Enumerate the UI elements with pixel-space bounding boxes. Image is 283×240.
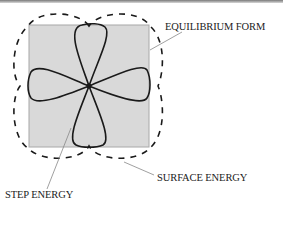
step-energy-label: STEP ENERGY [5,189,73,200]
equilibrium-form-label: EQUILIBRIUM FORM [165,21,265,32]
surface-energy-leader [124,162,154,175]
surface-energy-label: SURFACE ENERGY [157,172,247,183]
equilibrium-form-leader [150,32,182,50]
